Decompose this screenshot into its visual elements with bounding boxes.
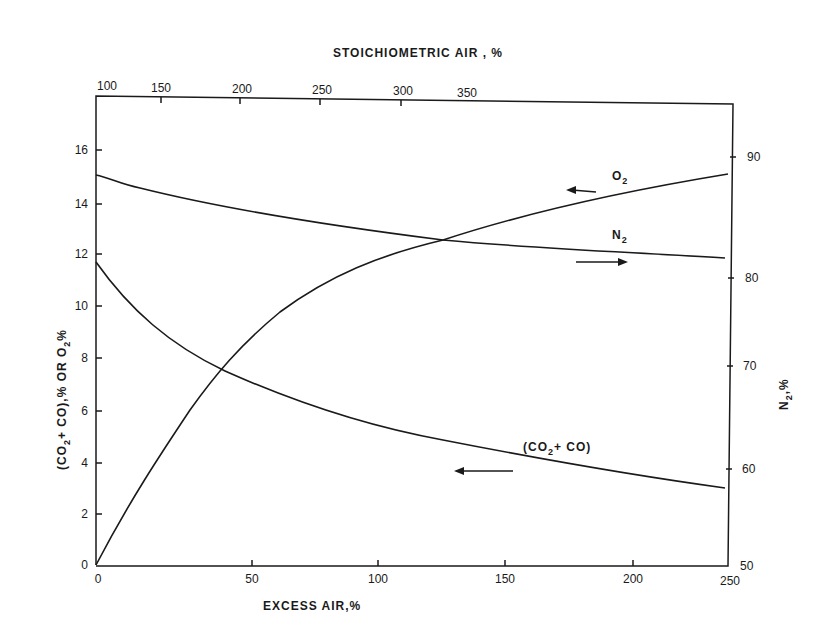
- o2-curve: [96, 174, 728, 565]
- left-tick-6: 6: [81, 404, 88, 418]
- left-tick-16: 16: [75, 143, 89, 157]
- top-tick-100: 100: [97, 79, 117, 93]
- top-tick-300: 300: [393, 84, 413, 98]
- co2-co-curve: [96, 262, 725, 488]
- o2-arrow-left-icon: [566, 186, 596, 194]
- left-tick-4: 4: [81, 456, 88, 470]
- right-tick-70: 70: [743, 359, 757, 373]
- right-axis-title: N2,%: [777, 378, 794, 410]
- o2-label: O2: [612, 169, 628, 186]
- n2-curve: [96, 175, 725, 258]
- n2-label: N2: [612, 228, 628, 245]
- right-tick-80: 80: [745, 271, 759, 285]
- bottom-axis-title: EXCESS AIR,%: [263, 599, 361, 613]
- n2-arrow-right-icon: [576, 258, 628, 266]
- left-tick-0: 0: [81, 558, 88, 572]
- bottom-tick-50: 50: [245, 572, 259, 586]
- top-tick-200: 200: [232, 82, 252, 96]
- right-tick-90: 90: [747, 150, 761, 164]
- bottom-tick-250: 250: [720, 574, 740, 588]
- left-tick-10: 10: [75, 299, 89, 313]
- top-tick-350: 350: [457, 86, 477, 100]
- top-tick-250: 250: [312, 83, 332, 97]
- left-tick-14: 14: [75, 197, 89, 211]
- bottom-tick-0: 0: [95, 572, 102, 586]
- plot-frame: [96, 96, 733, 566]
- bottom-tick-150: 150: [495, 572, 515, 586]
- top-axis-title: STOICHIOMETRIC AIR , %: [333, 46, 503, 60]
- left-axis-title: (CO2+ CO),% OR O2%: [55, 329, 72, 470]
- bottom-tick-200: 200: [623, 572, 643, 586]
- left-tick-8: 8: [81, 351, 88, 365]
- top-axis-ticks: 100 150 200 250 300 350: [97, 79, 477, 106]
- right-tick-60: 60: [742, 462, 756, 476]
- left-tick-2: 2: [81, 507, 88, 521]
- left-tick-12: 12: [75, 247, 89, 261]
- co2-co-label: (CO2+ CO): [523, 440, 591, 457]
- top-tick-150: 150: [151, 81, 171, 95]
- right-tick-50: 50: [740, 559, 754, 573]
- chart-svg: STOICHIOMETRIC AIR , % 100 150 200 250 3…: [0, 0, 828, 625]
- co2-co-arrow-left-icon: [454, 467, 513, 475]
- left-axis-ticks: 0 2 4 6 8 10 12 14 16: [75, 143, 102, 572]
- bottom-axis-ticks: 0 50 100 150 200 250: [95, 560, 741, 588]
- bottom-tick-100: 100: [368, 572, 388, 586]
